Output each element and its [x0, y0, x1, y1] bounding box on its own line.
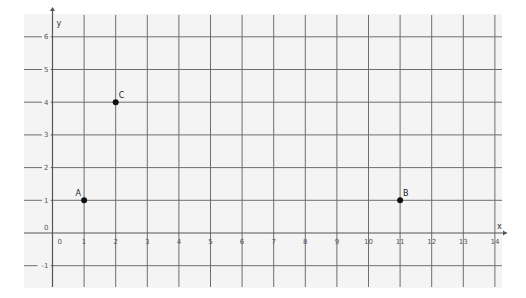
x-axis-arrow-icon	[503, 231, 507, 236]
y-axis-name: y	[57, 19, 62, 28]
x-tick-label: 1	[82, 238, 86, 246]
x-tick-label: 6	[240, 238, 245, 246]
y-tick-label: 2	[44, 164, 48, 172]
point-b-label: B	[403, 189, 409, 198]
y-tick-label: 3	[44, 131, 48, 139]
y-tick-label: -1	[42, 262, 49, 270]
y-tick-label: 5	[44, 66, 48, 74]
x-tick-label: 11	[396, 238, 405, 246]
x-tick-label: 7	[271, 238, 275, 246]
point-a-dot	[81, 197, 87, 203]
y-tick-label: 4	[44, 99, 49, 107]
x-tick-label: 2	[113, 238, 117, 246]
y-tick-label: 6	[44, 33, 49, 41]
point-a-label: A	[76, 189, 82, 198]
y-axis-arrow-icon	[50, 7, 55, 11]
x-tick-label: 4	[177, 238, 182, 246]
y-tick-label: 1	[44, 197, 48, 205]
x-tick-label: 3	[145, 238, 149, 246]
x-tick-label: 12	[427, 238, 436, 246]
x-tick-label: 13	[459, 238, 468, 246]
x-tick-label: 14	[490, 238, 499, 246]
x-tick-label: 0	[58, 238, 62, 246]
x-tick-label: 8	[303, 238, 307, 246]
point-c-label: C	[119, 91, 125, 100]
x-axis-name: x	[497, 222, 502, 231]
y-tick-label: 0	[44, 224, 48, 232]
x-tick-label: 9	[335, 238, 339, 246]
coordinate-plane: xy01234567891011121314-10123456 ABC	[0, 0, 526, 298]
x-tick-label: 5	[208, 238, 212, 246]
plot-background	[24, 14, 502, 288]
x-tick-label: 10	[364, 238, 373, 246]
